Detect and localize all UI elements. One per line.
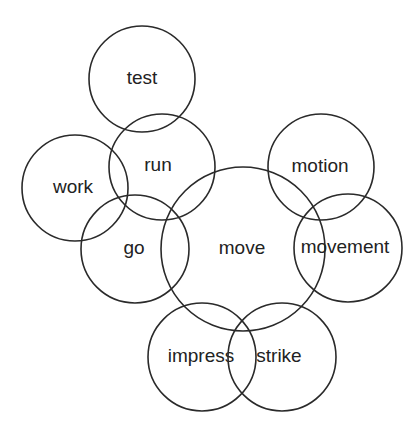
word-circle-diagram: test work run go move motion movement im… — [0, 0, 419, 434]
label-run: run — [144, 154, 171, 175]
node-movement: movement — [294, 194, 402, 302]
label-go: go — [123, 237, 144, 258]
node-run: run — [109, 114, 215, 220]
node-go: go — [81, 195, 189, 303]
label-work: work — [52, 176, 94, 197]
node-motion: motion — [268, 114, 374, 220]
label-impress: impress — [168, 345, 235, 366]
node-strike: strike — [228, 303, 336, 411]
label-motion: motion — [291, 155, 348, 176]
label-test: test — [127, 67, 158, 88]
label-movement: movement — [301, 236, 390, 257]
label-strike: strike — [256, 345, 301, 366]
label-move: move — [219, 237, 265, 258]
